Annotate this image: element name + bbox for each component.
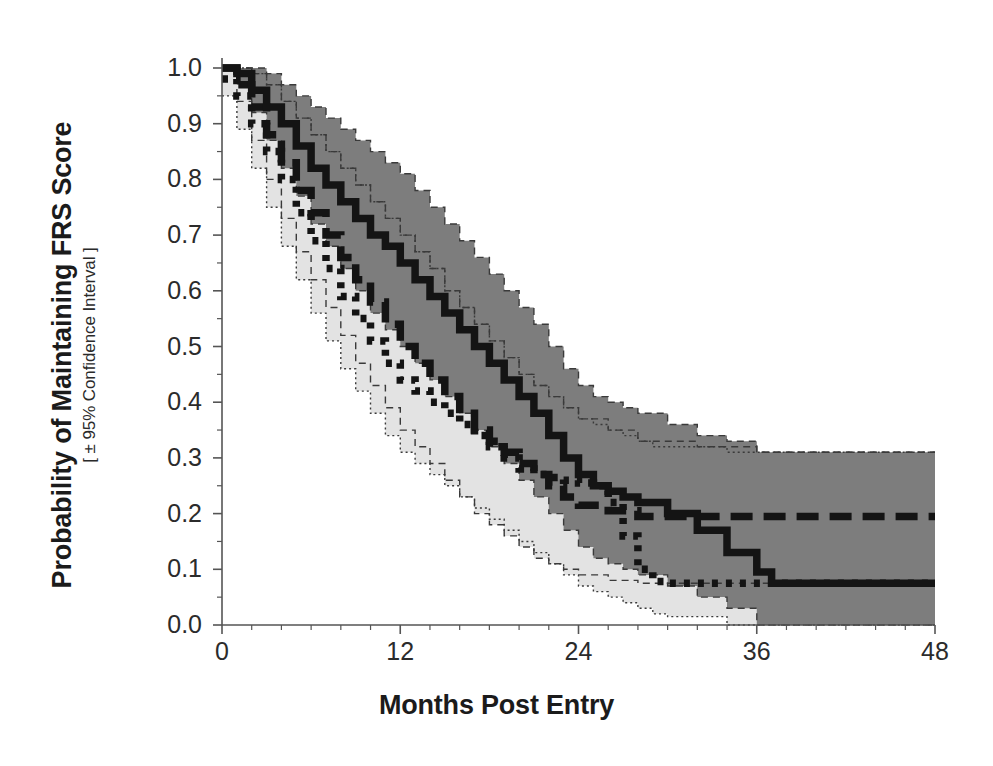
plot-canvas	[0, 0, 993, 766]
survival-chart-figure: Probability of Maintaining FRS Score [ ±…	[0, 0, 993, 766]
